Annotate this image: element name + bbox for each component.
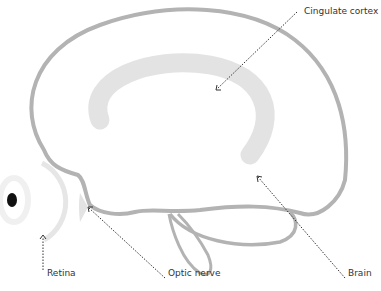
leader-lines <box>43 12 345 278</box>
label-retina: Retina <box>47 268 76 278</box>
arrow-heads <box>40 85 262 239</box>
leader-optic <box>89 208 165 278</box>
brain-outline <box>31 9 346 214</box>
cingulate-cortex <box>98 63 265 155</box>
arrow-head-icon <box>257 176 262 182</box>
retina-layer <box>42 163 66 240</box>
pupil <box>7 193 17 207</box>
label-brain: Brain <box>348 268 372 278</box>
brainstem <box>169 214 211 274</box>
brain-diagram <box>0 0 381 291</box>
label-optic-nerve: Optic nerve <box>168 268 220 278</box>
label-cingulate-cortex: Cingulate cortex <box>304 6 378 16</box>
leader-brain <box>258 177 345 278</box>
